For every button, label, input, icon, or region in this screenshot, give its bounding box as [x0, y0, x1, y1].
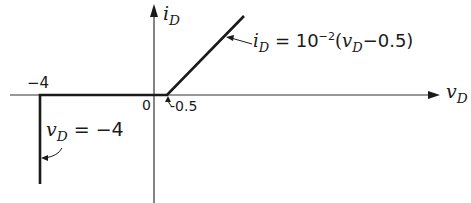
tick-label-minus-four: −4 — [27, 74, 49, 92]
forward-eq-var: v — [342, 30, 352, 51]
forward-eq-sub: D — [352, 40, 362, 55]
x-axis-label: vD — [446, 80, 468, 102]
breakdown-eq-var: v — [46, 118, 57, 140]
breakdown-eq-rest: = −4 — [68, 118, 124, 140]
x-axis-label-var: v — [446, 80, 457, 102]
origin-label: 0 — [142, 97, 151, 113]
forward-leader-arrow-icon — [226, 35, 234, 41]
breakdown-leader-arrow-icon — [41, 155, 48, 161]
forward-eq-lhs-var: i — [253, 30, 259, 51]
forward-eq-exp: −2 — [319, 30, 335, 43]
y-axis-arrow-icon — [150, 4, 158, 17]
y-axis-label-sub: D — [169, 12, 180, 28]
breakdown-eq-sub: D — [57, 128, 68, 144]
x-axis-arrow-icon — [428, 91, 440, 99]
x-axis-label-sub: D — [457, 90, 468, 106]
breakdown-equation: vD = −4 — [46, 118, 124, 140]
tick-label-knee: -0.5 — [170, 98, 197, 114]
forward-eq-coeff: = 10 — [269, 30, 318, 51]
forward-equation: iD = 10−2(vD−0.5) — [253, 30, 413, 51]
forward-eq-rest: −0.5) — [363, 30, 414, 51]
forward-eq-lhs-sub: D — [259, 40, 269, 55]
forward-leader — [231, 38, 252, 44]
y-axis-label: iD — [163, 2, 180, 24]
